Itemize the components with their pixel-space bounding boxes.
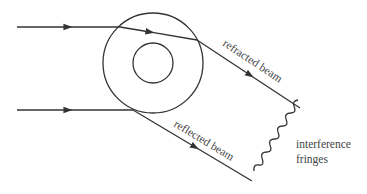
reflected-beam-label: reflected beam bbox=[172, 117, 237, 162]
reflected-beam bbox=[133, 110, 252, 181]
interference-fringes-wave bbox=[254, 100, 298, 171]
ray-diagram: refracted beam reflected beam interferen… bbox=[0, 0, 367, 194]
fringes-label: fringes bbox=[296, 153, 328, 166]
interference-label: interference bbox=[296, 138, 351, 150]
internal-refracted-ray bbox=[120, 27, 197, 40]
inner-circle bbox=[133, 43, 173, 83]
diagram-canvas: refracted beam reflected beam interferen… bbox=[0, 0, 367, 194]
outer-circle bbox=[103, 13, 203, 113]
